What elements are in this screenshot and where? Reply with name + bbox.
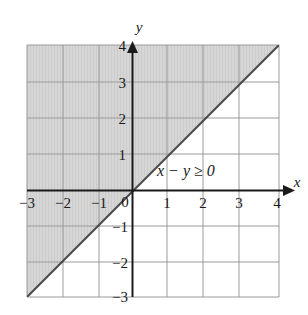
y-tick-1: 1 <box>119 147 127 163</box>
y-tick-4: 4 <box>119 38 127 54</box>
x-tick-3: 3 <box>235 195 243 211</box>
inequality-annotation: x − y ≥ 0 <box>156 162 215 180</box>
x-axis-label: x <box>293 174 301 190</box>
x-tick-neg2: −2 <box>55 195 71 211</box>
y-tick-2: 2 <box>119 111 127 127</box>
y-axis-label: y <box>134 19 143 35</box>
x-tick-2: 2 <box>199 195 207 211</box>
inequality-graph: x y −3 −2 −1 1 2 3 4 0 4 3 2 1 −1 −2 −3 … <box>0 0 308 315</box>
x-tick-neg1: −1 <box>91 195 107 211</box>
x-tick-4: 4 <box>273 195 281 211</box>
y-tick-3: 3 <box>119 75 127 91</box>
graph-canvas: x y −3 −2 −1 1 2 3 4 0 4 3 2 1 −1 −2 −3 … <box>0 0 308 315</box>
origin-label: 0 <box>121 194 129 210</box>
x-tick-1: 1 <box>163 195 171 211</box>
y-tick-neg1: −1 <box>112 219 128 235</box>
x-tick-neg3: −3 <box>19 195 35 211</box>
y-tick-neg2: −2 <box>112 255 128 271</box>
y-tick-neg3: −3 <box>112 289 128 305</box>
